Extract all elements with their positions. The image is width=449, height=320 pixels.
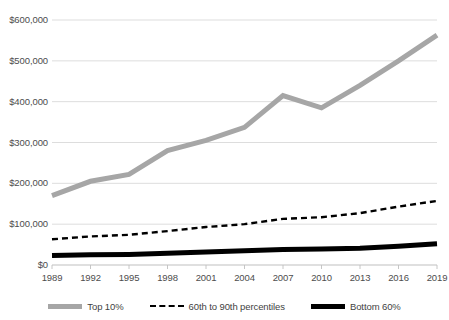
y-axis-tick-label: $100,000 <box>2 219 48 229</box>
x-axis-tick-label: 2001 <box>186 272 226 283</box>
y-axis-tick: $300,000 <box>0 138 48 148</box>
x-axis-tick-label: 2019 <box>417 272 449 283</box>
series-line-1 <box>52 35 437 195</box>
y-axis-tick-label: $500,000 <box>2 56 48 66</box>
y-axis-tick-label: $600,000 <box>2 15 48 25</box>
x-axis-tick-label: 2007 <box>263 272 303 283</box>
y-axis-tick-label: $200,000 <box>2 178 48 188</box>
series-line-2 <box>52 201 437 239</box>
y-axis-tick-label: $0 <box>2 260 48 270</box>
legend-label-bottom60: Bottom 60% <box>350 301 401 312</box>
legend-label-mid: 60th to 90th percentiles <box>189 301 285 312</box>
y-axis-tick: $400,000 <box>0 97 48 107</box>
y-axis-tick-label: $300,000 <box>2 138 48 148</box>
series-line-3 <box>52 244 437 256</box>
x-axis-tick-label: 2010 <box>302 272 342 283</box>
x-axis-tick-label: 2004 <box>225 272 265 283</box>
data-series <box>52 35 437 256</box>
legend-item-bottom60[interactable]: Bottom 60% <box>311 301 401 312</box>
y-axis-tick: $0 <box>0 260 48 270</box>
line-swatch-gray-icon <box>48 301 82 311</box>
y-axis-tick-label: $400,000 <box>2 97 48 107</box>
dashed-line-swatch-black-icon <box>150 301 184 311</box>
gridlines <box>52 20 437 265</box>
x-axis-tick-label: 1989 <box>32 272 72 283</box>
y-axis-tick: $600,000 <box>0 15 48 25</box>
x-axis-tick-label: 2013 <box>340 272 380 283</box>
income-by-percentile-line-chart: $0$100,000$200,000$300,000$400,000$500,0… <box>0 0 449 320</box>
chart-legend: Top 10% 60th to 90th percentiles Bottom … <box>0 297 449 315</box>
legend-item-mid[interactable]: 60th to 90th percentiles <box>150 301 285 312</box>
y-axis-tick: $500,000 <box>0 56 48 66</box>
y-axis-tick: $100,000 <box>0 219 48 229</box>
x-axis-tick-label: 1995 <box>109 272 149 283</box>
legend-item-top10[interactable]: Top 10% <box>48 301 123 312</box>
x-axis-tick-marks <box>52 265 437 269</box>
x-axis-tick-label: 1998 <box>148 272 188 283</box>
x-axis-tick-label: 1992 <box>71 272 111 283</box>
line-swatch-black-icon <box>311 301 345 311</box>
y-axis-tick: $200,000 <box>0 178 48 188</box>
legend-label-top10: Top 10% <box>87 301 123 312</box>
x-axis-tick-label: 2016 <box>379 272 419 283</box>
